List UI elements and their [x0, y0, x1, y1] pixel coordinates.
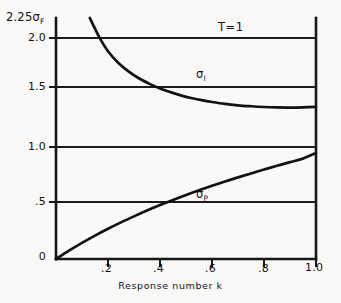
y-tick-label-1_0: 1.0 [6, 141, 46, 152]
curve-label-sigma-P-sub: P [204, 194, 209, 203]
y-tick-label-2_0: 2.0 [6, 32, 46, 43]
data-curves [56, 18, 316, 259]
figure-container: 2.25σF 2.0 1.5 1.0 .5 0 .2 .4 .6 .8 1.0 … [0, 0, 341, 303]
x-tick-label-1_0: 1.0 [305, 262, 323, 273]
curve-label-sigma-P: σP [196, 189, 208, 203]
curve-label-sigma-I-main: σ [196, 67, 204, 81]
x-tick-label-0_2: .2 [101, 263, 112, 274]
x-tick-label-0_8: .8 [258, 263, 269, 274]
y-tick-label-0: 0 [6, 251, 46, 262]
x-axis-title: Response number k [0, 281, 341, 291]
y-axis-title: 2.25σF [6, 12, 44, 26]
x-tick-label-0_6: .6 [205, 263, 216, 274]
y-axis-title-main: 2.25σ [6, 10, 40, 24]
curve-sigma-I [90, 18, 316, 108]
gridlines [56, 38, 316, 202]
axes [56, 18, 316, 259]
chart-plot-area [0, 0, 341, 303]
annotation-temperature: T=1 [218, 22, 243, 34]
curve-label-sigma-P-main: σ [196, 187, 204, 201]
curve-label-sigma-I-sub: I [204, 74, 206, 83]
y-axis-title-sub: F [40, 17, 44, 26]
y-tick-label-1_5: 1.5 [6, 81, 46, 92]
x-tick-label-0_4: .4 [153, 263, 164, 274]
curve-label-sigma-I: σI [196, 69, 206, 83]
curve-sigma-P [56, 153, 316, 259]
y-tick-label-0_5: .5 [6, 196, 46, 207]
